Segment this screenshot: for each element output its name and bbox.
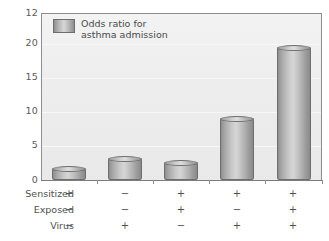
- x-tick-4: [265, 180, 266, 184]
- factor-exposed-value-3: +: [171, 202, 191, 218]
- legend: Odds ratio for asthma admission: [53, 18, 168, 40]
- factor-virus-value-3: −: [171, 218, 191, 234]
- bar-3[interactable]: [164, 162, 198, 180]
- x-tick-3: [209, 180, 210, 184]
- legend-label: Odds ratio for asthma admission: [81, 18, 168, 40]
- factor-sensitized-value-3: +: [171, 186, 191, 202]
- legend-label-line-1: Odds ratio for: [81, 18, 168, 29]
- factor-virus-value-4: +: [227, 218, 247, 234]
- factor-sensitized-value-4: +: [227, 186, 247, 202]
- bar-1[interactable]: [52, 168, 86, 180]
- factor-virus-value-2: +: [115, 218, 135, 234]
- bar-2[interactable]: [108, 158, 142, 180]
- factor-exposed-value-2: −: [115, 202, 135, 218]
- factor-exposed-value-4: −: [227, 202, 247, 218]
- bar-4[interactable]: [220, 118, 254, 180]
- factor-exposed-value-1: −: [59, 202, 79, 218]
- bar-5[interactable]: [277, 47, 311, 180]
- y-tick-label-25: 12: [12, 8, 38, 18]
- factor-virus-value-1: −: [59, 218, 79, 234]
- y-tick-label-5: 5: [12, 140, 38, 150]
- y-tick-label-15: 15: [12, 72, 38, 82]
- factor-sensitized-value-2: −: [115, 186, 135, 202]
- bar-slot-5: [265, 13, 322, 180]
- factor-row-virus: Virus − + − + +: [0, 218, 329, 234]
- factor-row-sensitized: Sensitized + − + + +: [0, 186, 329, 202]
- x-axis-ticks: [41, 180, 323, 184]
- factor-exposed-value-5: +: [283, 202, 303, 218]
- x-tick-1: [97, 180, 98, 184]
- x-tick-2: [153, 180, 154, 184]
- bar-slot-4: [209, 13, 265, 180]
- category-factor-table: Sensitized + − + + + Exposed − − + − + V…: [0, 186, 329, 234]
- y-tick-label-20: 20: [12, 38, 38, 48]
- legend-swatch-icon: [53, 19, 75, 33]
- y-tick-label-10: 10: [12, 106, 38, 116]
- y-tick-label-0: 0: [12, 175, 38, 185]
- factor-virus-value-5: +: [283, 218, 303, 234]
- legend-label-line-2: asthma admission: [81, 29, 168, 40]
- factor-sensitized-value-1: +: [59, 186, 79, 202]
- factor-sensitized-value-5: +: [283, 186, 303, 202]
- odds-ratio-bar-chart: 12 20 15 10 5 0: [0, 0, 329, 241]
- x-tick-5: [322, 180, 323, 184]
- factor-row-exposed: Exposed − − + − +: [0, 202, 329, 218]
